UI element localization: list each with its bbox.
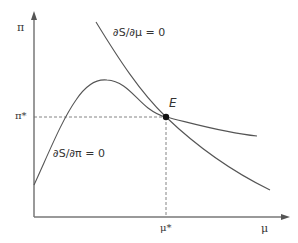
ds-dpi-label: ∂S/∂π = 0	[53, 148, 105, 159]
pi-star-label: π*	[15, 111, 27, 121]
equilibrium-point	[163, 114, 169, 120]
mu-star-label: μ*	[160, 223, 172, 233]
ds-dpi-curve	[34, 80, 257, 185]
x-axis-arrow-icon	[281, 214, 290, 220]
ds-dmu-label: ∂S/∂μ = 0	[113, 27, 165, 38]
y-axis-arrow-icon	[31, 11, 37, 20]
equilibrium-label: E	[169, 97, 177, 109]
y-axis-label: π	[17, 22, 24, 33]
ds-dmu-curve	[96, 22, 270, 190]
x-axis-label: μ	[261, 223, 268, 234]
